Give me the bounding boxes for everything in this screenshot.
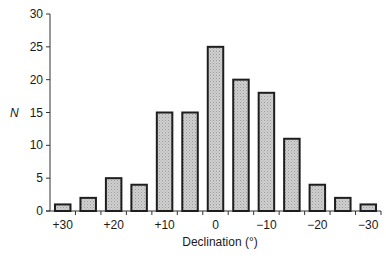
bars — [55, 47, 376, 211]
declination-histogram: 051015202530 +30+20+100−10−20−30 N Decli… — [0, 0, 386, 259]
y-tick-label: 10 — [30, 138, 44, 152]
histogram-bar — [80, 198, 96, 211]
histogram-bar — [284, 139, 300, 211]
y-tick-label: 20 — [30, 73, 44, 87]
histogram-bar — [106, 178, 122, 211]
histogram-bar — [361, 204, 377, 211]
y-tick-label: 25 — [30, 40, 44, 54]
y-tick-label: 15 — [30, 106, 44, 120]
x-tick-label: −20 — [307, 218, 328, 232]
histogram-bar — [208, 47, 224, 211]
histogram-bar — [55, 204, 71, 211]
y-tick-label: 30 — [30, 7, 44, 21]
x-tick-label: +10 — [154, 218, 175, 232]
y-axis-title: N — [10, 106, 19, 120]
y-tick-label: 5 — [36, 171, 43, 185]
histogram-bar — [335, 198, 351, 211]
histogram-bar — [182, 113, 198, 212]
x-tick-label: +30 — [53, 218, 74, 232]
y-axis: 051015202530 — [30, 7, 50, 218]
histogram-bar — [233, 80, 249, 211]
histogram-bar — [157, 113, 173, 212]
x-tick-label: 0 — [212, 218, 219, 232]
histogram-bar — [310, 185, 326, 211]
x-axis: +30+20+100−10−20−30 — [46, 211, 381, 232]
histogram-bar — [131, 185, 147, 211]
histogram-bar — [259, 93, 275, 211]
x-axis-title: Declination (°) — [182, 235, 258, 249]
x-tick-label: −30 — [358, 218, 379, 232]
x-tick-label: +20 — [103, 218, 124, 232]
x-tick-label: −10 — [256, 218, 277, 232]
y-tick-label: 0 — [36, 204, 43, 218]
